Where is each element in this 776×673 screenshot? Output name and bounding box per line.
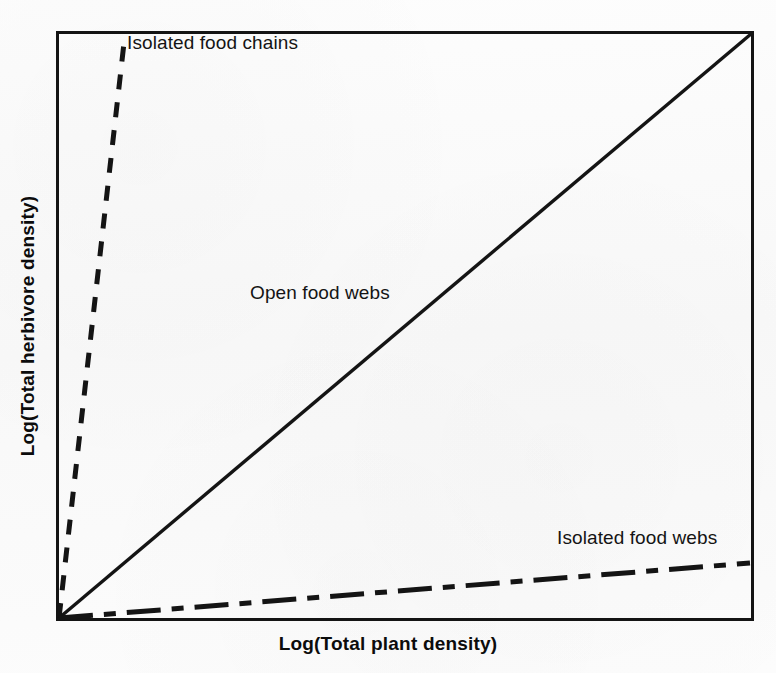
plot-canvas: [0, 0, 776, 673]
y-axis-title: Log(Total herbivore density): [18, 32, 37, 620]
line-isolated-food-webs: [59, 563, 750, 618]
line-isolated-food-chains: [59, 34, 125, 618]
annotation-isolated-food-chains: Isolated food chains: [127, 33, 298, 52]
x-axis-title: Log(Total plant density): [0, 634, 776, 653]
annotation-open-food-webs: Open food webs: [250, 283, 390, 302]
figure-root: Isolated food chains Open food webs Isol…: [0, 0, 776, 673]
series-isolated-food-chains: [59, 34, 125, 618]
series-isolated-food-webs: [59, 563, 750, 618]
annotation-isolated-food-webs: Isolated food webs: [557, 528, 717, 547]
